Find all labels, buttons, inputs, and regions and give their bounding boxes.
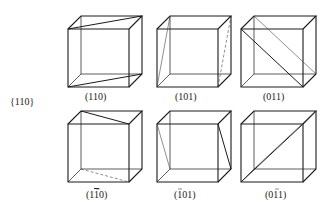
plane-line bbox=[241, 29, 303, 87]
plane-line bbox=[241, 124, 303, 182]
cube-1-bar1-0 bbox=[68, 111, 142, 182]
cube-label-0-bar1-1: (011) bbox=[265, 189, 286, 201]
cube-011 bbox=[241, 16, 316, 87]
plane-line bbox=[254, 111, 316, 169]
cube-label-bar1-0-1: (101) bbox=[174, 189, 196, 201]
cube-bar1-0-1 bbox=[157, 111, 231, 182]
cube-label-1-bar1-0: (110) bbox=[86, 189, 107, 201]
cube-label-101: (101) bbox=[175, 91, 197, 103]
family-label: {110} bbox=[10, 96, 34, 107]
plane-line bbox=[157, 124, 170, 169]
cube-label-011: (011) bbox=[263, 91, 284, 103]
plane-line bbox=[81, 169, 129, 182]
plane-line bbox=[218, 124, 231, 169]
cube-label-110: (110) bbox=[85, 91, 106, 103]
crystal-planes-diagram: {110} (110) (101) (011) bbox=[0, 0, 326, 211]
cube-101 bbox=[157, 16, 231, 87]
cube-110 bbox=[68, 16, 142, 87]
plane-line bbox=[81, 111, 129, 124]
cube-0-bar1-1 bbox=[241, 111, 316, 182]
